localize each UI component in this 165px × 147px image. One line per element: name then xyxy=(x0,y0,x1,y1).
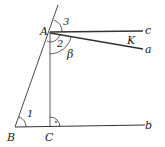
geometry-diagram: A B C c a b K 3 2 β 1 xyxy=(0,0,165,147)
ray-b xyxy=(15,125,145,127)
ray-c xyxy=(50,31,143,32)
point-b-label: B xyxy=(6,131,15,144)
angle-1-arc xyxy=(19,117,26,127)
ray-c-label: c xyxy=(145,24,151,37)
angle-3-label: 3 xyxy=(63,16,69,27)
right-angle-arc xyxy=(50,117,60,127)
intersection-k-label: K xyxy=(126,34,136,47)
point-a-label: A xyxy=(39,25,48,38)
ray-b-label: b xyxy=(145,119,152,132)
right-angle-dot xyxy=(55,121,57,123)
angle-3-arc xyxy=(54,20,62,32)
ray-a-label: a xyxy=(145,43,152,56)
angle-2-label: 2 xyxy=(56,38,63,49)
angle-1-label: 1 xyxy=(27,108,33,119)
line-ba xyxy=(15,5,58,127)
angle-a-inner-arc xyxy=(47,41,50,42)
point-c-label: C xyxy=(45,131,54,144)
angle-beta-label: β xyxy=(66,48,73,61)
